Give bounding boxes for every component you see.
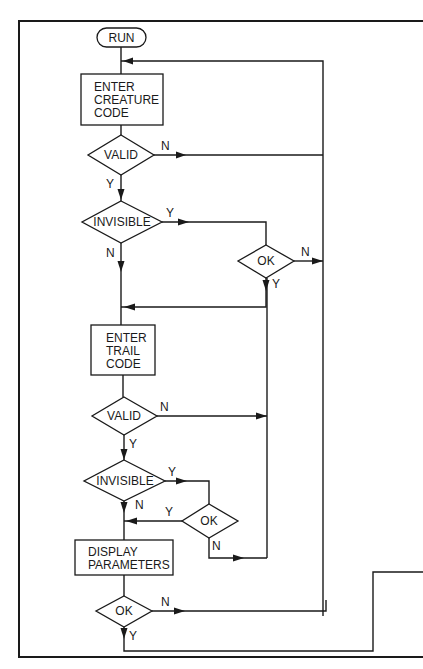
node-text-line: DISPLAY	[88, 545, 138, 559]
decision-label: VALID	[104, 148, 138, 162]
edge-label-y: Y	[129, 437, 137, 451]
edge-label-n: N	[160, 400, 169, 414]
edge-label-y: Y	[106, 177, 114, 191]
decision-label: INVISIBLE	[93, 215, 150, 229]
decision-label: OK	[200, 514, 217, 528]
node-ok-1: OK	[238, 245, 294, 278]
arrow-icon	[126, 518, 137, 525]
edge-label-y: Y	[165, 505, 173, 519]
node-valid-2: VALID	[92, 397, 157, 435]
node-ok-2: OK	[182, 504, 238, 538]
edge-label-n: N	[161, 139, 170, 153]
node-text-line: ENTER	[106, 331, 147, 345]
edge-valid1-no: N	[154, 139, 323, 159]
arrow-icon	[121, 628, 128, 639]
node-ok-3: OK	[96, 596, 152, 627]
edge-valid1-yes: Y	[106, 175, 125, 201]
arrow-icon	[118, 189, 125, 200]
edge-invisible1-no: N	[106, 243, 125, 325]
node-enter-creature-code: ENTER CREATURE CODE	[81, 74, 163, 125]
edge-ok1-no: N	[294, 245, 323, 265]
node-text-line: CODE	[94, 106, 129, 120]
node-text-line: PARAMETERS	[88, 558, 170, 572]
arrow-icon	[121, 502, 128, 513]
node-invisible-2: INVISIBLE	[84, 460, 165, 501]
node-text-line: TRAIL	[106, 344, 140, 358]
edge-ok3-no: N	[152, 595, 326, 615]
edge-label-n: N	[212, 539, 221, 553]
decision-label: INVISIBLE	[96, 474, 153, 488]
node-enter-trail-code: ENTER TRAIL CODE	[91, 325, 155, 375]
edge-label-n: N	[106, 246, 115, 260]
edge-label-n: N	[301, 245, 310, 259]
edge-label-y: Y	[166, 206, 174, 220]
arrow-icon	[121, 449, 128, 460]
arrow-icon	[263, 280, 270, 291]
node-text-line: CREATURE	[94, 93, 159, 107]
edge-label-n: N	[135, 498, 144, 512]
edge-ok1-yes: Y	[121, 277, 280, 311]
decision-label: OK	[115, 604, 132, 618]
arrow-icon	[174, 608, 185, 615]
decision-label: VALID	[107, 409, 141, 423]
arrow-icon	[312, 258, 323, 265]
arrow-icon	[233, 555, 244, 562]
arrow-icon	[176, 152, 186, 159]
arrow-icon	[124, 304, 135, 311]
edge-label-y: Y	[272, 277, 280, 291]
node-invisible-1: INVISIBLE	[82, 201, 162, 243]
edge-label-y: Y	[168, 465, 176, 479]
edge-invisible2-no: N	[121, 498, 144, 540]
edge-ok2-yes: Y	[124, 505, 182, 525]
arrow-icon	[178, 219, 189, 226]
decision-label: OK	[257, 254, 274, 268]
flowchart: RUN ENTER CREATURE CODE VALID N Y INVISI…	[0, 0, 423, 669]
arrow-icon	[256, 413, 267, 420]
edge-label-y: Y	[129, 629, 137, 643]
node-text-line: CODE	[106, 357, 141, 371]
node-display-parameters: DISPLAY PARAMETERS	[75, 540, 173, 575]
node-text-line: ENTER	[94, 80, 135, 94]
arrow-icon	[176, 478, 187, 485]
node-valid-1: VALID	[88, 135, 154, 175]
arrow-icon	[118, 261, 125, 272]
edge-invisible2-yes: Y	[165, 465, 209, 504]
edge-valid2-yes: Y	[121, 435, 138, 460]
node-run: RUN	[97, 28, 146, 47]
node-run-label: RUN	[109, 31, 135, 45]
edge-ok2-no: N	[209, 538, 267, 562]
arrow-icon	[123, 58, 133, 65]
edge-label-n: N	[161, 595, 170, 609]
edge-invisible1-yes: Y	[162, 206, 266, 245]
edge-valid2-no: N	[157, 400, 267, 420]
